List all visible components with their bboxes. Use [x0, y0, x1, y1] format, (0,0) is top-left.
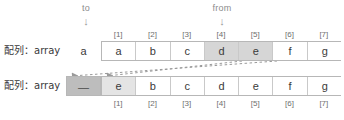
array-cell: b [136, 77, 170, 95]
array-cell: e [239, 42, 273, 60]
index-label: [6] [272, 29, 306, 40]
array-cell: f [273, 42, 307, 60]
index-label: [1] [101, 98, 135, 109]
index-label: [4] [204, 98, 238, 109]
array-cell: a [102, 42, 136, 60]
array-cell: c [171, 77, 205, 95]
array-row-label-bottom: 配列：array [4, 76, 60, 96]
array-cell: g [308, 42, 342, 60]
lead-value-top: a [66, 41, 101, 61]
copy-arrow-from-index-4 [107, 61, 242, 76]
array-cell: d [205, 42, 239, 60]
pointer-label-from: from [204, 3, 240, 13]
index-label: [5] [238, 98, 272, 109]
array-cell: e [102, 77, 136, 95]
index-label: [2] [135, 98, 169, 109]
pointer-arrow-to: ↓ [68, 16, 104, 26]
index-label: [7] [307, 29, 341, 40]
array-cell: d [205, 77, 239, 95]
array-cell: c [171, 42, 205, 60]
index-label: [6] [272, 98, 306, 109]
array-row-label-top: 配列：array [4, 41, 60, 61]
index-row-top: [1] [2] [3] [4] [5] [6] [7] [101, 29, 341, 40]
lead-value-bottom: — [66, 76, 101, 96]
index-label: [4] [204, 29, 238, 40]
index-label: [2] [135, 29, 169, 40]
pointer-label-to: to [68, 3, 104, 13]
array-row-after: 配列：array — e b c d e f g [0, 76, 344, 96]
array-cell: f [273, 77, 307, 95]
index-label: [5] [238, 29, 272, 40]
index-label: [3] [170, 98, 204, 109]
index-label: [1] [101, 29, 135, 40]
copy-arrow-from-index-5 [72, 61, 277, 76]
pointer-arrow-from: ↓ [204, 16, 240, 26]
array-cell: b [136, 42, 170, 60]
index-label: [7] [307, 98, 341, 109]
array-cell: g [308, 77, 342, 95]
array-cell: e [239, 77, 273, 95]
array-shift-diagram: to ↓ from ↓ [1] [2] [3] [4] [5] [6] [7] … [0, 0, 344, 120]
index-label: [3] [170, 29, 204, 40]
index-row-bottom: [1] [2] [3] [4] [5] [6] [7] [101, 98, 341, 109]
array-cells-bottom: e b c d e f g [101, 76, 341, 96]
array-cells-top: a b c d e f g [101, 41, 341, 61]
array-row-before: 配列：array a a b c d e f g [0, 41, 344, 61]
